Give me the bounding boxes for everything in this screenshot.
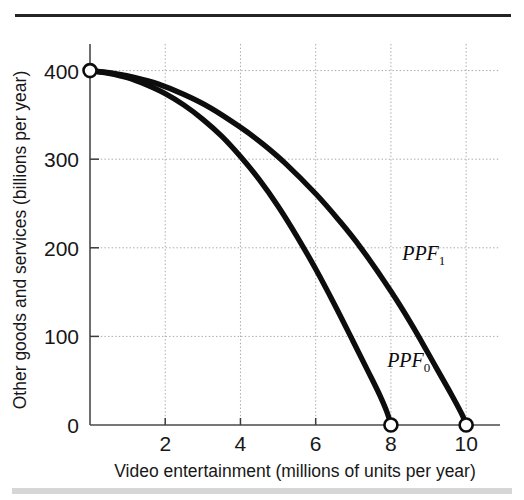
ppf-figure: 2468100100200300400 PPF0PPF1 Video enter… — [0, 0, 524, 500]
x-axis-title: Video entertainment (millions of units p… — [114, 461, 476, 481]
y-tick-label-0: 0 — [67, 414, 79, 437]
curve-label-group: PPF0PPF1 — [386, 242, 445, 375]
y-tick-label-100: 100 — [44, 325, 79, 348]
ppf1-endpoint-marker — [460, 419, 473, 432]
x-tick-label-2: 2 — [159, 432, 171, 455]
y-tick-label-200: 200 — [44, 237, 79, 260]
y-tick-label-300: 300 — [44, 148, 79, 171]
curve-label-PPF_1: PPF1 — [401, 242, 445, 268]
shared-origin-marker — [84, 64, 97, 77]
x-tick-label-6: 6 — [310, 432, 322, 455]
x-tick-label-4: 4 — [235, 432, 247, 455]
curve-label-PPF_0: PPF0 — [386, 349, 430, 375]
y-axis-title: Other goods and services (billions per y… — [10, 71, 30, 410]
x-tick-label-10: 10 — [454, 432, 477, 455]
y-tick-label-400: 400 — [44, 60, 79, 83]
bottom-divider-band — [12, 488, 512, 494]
ppf-plot-area: 2468100100200300400 PPF0PPF1 Video enter… — [0, 0, 524, 500]
x-tick-label-8: 8 — [385, 432, 397, 455]
ppf0-endpoint-marker — [384, 419, 397, 432]
